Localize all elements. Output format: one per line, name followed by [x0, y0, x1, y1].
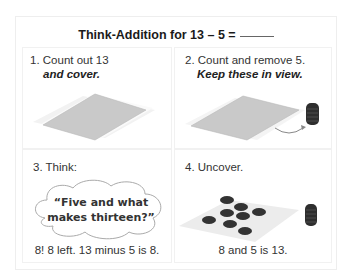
counter-stack-icon	[305, 204, 317, 226]
step-3-caption: 8! 8 left. 13 minus 5 is 8.	[23, 244, 171, 256]
panel-step-1: 1. Count out 13 and cover.	[22, 47, 172, 149]
step-4-caption: 8 and 5 is 13.	[175, 244, 331, 256]
thought-line-1: “Five and what	[54, 196, 149, 209]
thought-line-2: makes thirteen?”	[47, 211, 155, 224]
mat-with-removed-stack-illustration	[175, 48, 331, 148]
panel-step-2: 2. Count and remove 5. Keep these in vie…	[174, 47, 332, 149]
step-4-label: 4. Uncover.	[185, 160, 243, 174]
panel-step-3: 3. Think: “Five and what makes thirteen?…	[22, 149, 172, 263]
panel-step-4: 4. Uncover. 8 and 5 is 13.	[174, 149, 332, 263]
counter-stack-icon	[306, 103, 319, 125]
worksheet-frame: Think-Addition for 13 – 5 = 1. Count out…	[15, 16, 337, 270]
answer-blank	[240, 36, 274, 37]
thought-cloud-icon: “Five and what makes thirteen?”	[29, 174, 177, 244]
step-3-label: 3. Think:	[33, 160, 77, 174]
covered-mat-illustration	[23, 48, 171, 148]
title-text: Think-Addition for 13 – 5 =	[78, 28, 235, 42]
worksheet-title: Think-Addition for 13 – 5 =	[16, 28, 336, 42]
